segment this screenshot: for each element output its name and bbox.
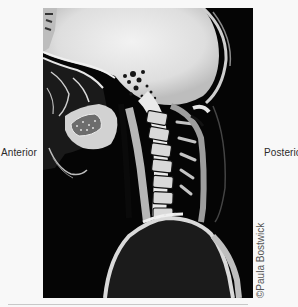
- mri-sagittal-head-neck: [43, 8, 253, 298]
- mri-image: [43, 8, 253, 298]
- photo-credit: ©Paula Bostwick: [255, 223, 266, 298]
- bottom-divider: [8, 304, 248, 305]
- anterior-label: Anterior: [1, 147, 37, 158]
- posterior-label: Posterior: [264, 147, 298, 158]
